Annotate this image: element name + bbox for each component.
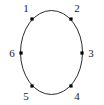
vertex-label-2: 2	[74, 2, 80, 14]
vertex-label-3: 3	[88, 47, 94, 59]
vertex-label-6: 6	[9, 47, 15, 59]
vertex-dot-1	[30, 17, 33, 20]
vertex-dot-2	[69, 17, 72, 20]
vertex-label-5: 5	[23, 90, 29, 102]
vertex-dot-4	[69, 84, 72, 87]
diagram-canvas: 123456	[0, 0, 104, 105]
vertex-dot-5	[30, 84, 33, 87]
vertex-label-1: 1	[23, 2, 29, 14]
vertex-dot-3	[80, 51, 83, 54]
cycle-graph-figure: 123456	[0, 0, 104, 105]
vertex-label-4: 4	[74, 90, 80, 102]
vertex-dot-6	[19, 51, 22, 54]
